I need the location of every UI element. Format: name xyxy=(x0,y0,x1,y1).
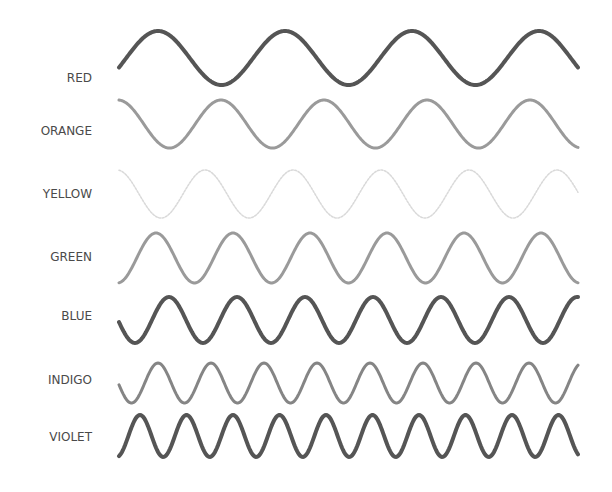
label-green: GREEN xyxy=(50,250,92,264)
wave-yellow xyxy=(119,170,578,218)
label-indigo: INDIGO xyxy=(48,373,92,387)
wave-indigo xyxy=(119,363,578,403)
wave-blue xyxy=(119,297,578,343)
label-orange: ORANGE xyxy=(41,124,92,138)
label-yellow: YELLOW xyxy=(43,187,92,201)
label-blue: BLUE xyxy=(61,309,92,323)
label-violet: VIOLET xyxy=(49,430,92,444)
wave-red xyxy=(119,31,578,85)
label-red: RED xyxy=(67,71,92,85)
wave-violet xyxy=(119,415,578,457)
wave-green xyxy=(119,233,578,283)
wave-orange xyxy=(119,100,578,148)
